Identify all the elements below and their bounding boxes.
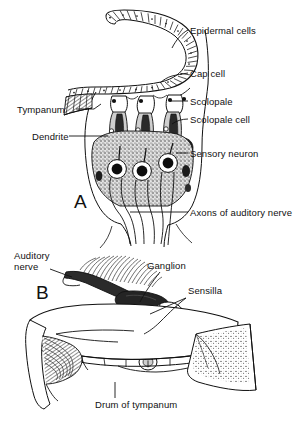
epidermal-cell-band — [66, 10, 198, 97]
label-dendrite: Dendrite — [32, 131, 69, 142]
label-auditory-nerve-line1: Auditory — [14, 250, 50, 261]
figure-root: Epidermal cells Cap cell Scolopale Scolo… — [0, 0, 297, 422]
label-sensilla: Sensilla — [188, 285, 222, 296]
label-axons-of-auditory-nerve: Axons of auditory nerve — [190, 207, 292, 218]
label-tympanum: Tympanum — [17, 104, 65, 115]
label-auditory-nerve-line2: nerve — [14, 261, 38, 272]
label-drum-of-tympanum: Drum of tympanum — [95, 399, 177, 410]
panel-b-drawing — [26, 256, 256, 409]
label-scolopale: Scolopale — [190, 96, 233, 107]
label-cap-cell: Cap cell — [190, 68, 225, 79]
panel-b-letter: B — [36, 283, 49, 302]
label-scolopale-cell: Scolopale cell — [190, 114, 250, 125]
panel-a-letter: A — [74, 192, 87, 211]
label-ganglion: Ganglion — [147, 260, 186, 271]
label-epidermal-cells: Epidermal cells — [190, 25, 256, 36]
label-sensory-neuron: Sensory neuron — [190, 148, 258, 159]
